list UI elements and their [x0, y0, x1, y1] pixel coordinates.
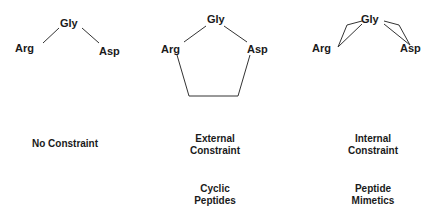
- bond-gly-arg-1: [43, 28, 59, 43]
- subcaption-peptide-mimetics: Peptide Mimetics: [333, 183, 413, 207]
- caption-line: Internal: [333, 133, 413, 145]
- diagram-lines: [0, 0, 430, 210]
- node-asp-3: Asp: [400, 42, 421, 54]
- caption-line: Constraint: [333, 145, 413, 157]
- subcaption-cyclic-peptides: Cyclic Peptides: [175, 183, 255, 207]
- node-asp-1: Asp: [99, 45, 120, 57]
- caption-line: Cyclic: [175, 183, 255, 195]
- node-arg-2: Arg: [161, 43, 180, 55]
- caption-line: No Constraint: [20, 138, 110, 150]
- node-asp-2: Asp: [247, 43, 268, 55]
- bond-gly-arg-3a: [338, 24, 362, 47]
- node-arg-1: Arg: [15, 42, 34, 54]
- caption-external-constraint: External Constraint: [175, 133, 255, 157]
- node-gly-2: Gly: [207, 13, 225, 25]
- caption-line: Peptide: [333, 183, 413, 195]
- bond-gly-asp-2: [224, 26, 247, 42]
- node-gly-3: Gly: [361, 13, 379, 25]
- caption-internal-constraint: Internal Constraint: [333, 133, 413, 157]
- caption-line: External: [175, 133, 255, 145]
- bond-gly-asp-1: [82, 28, 99, 43]
- caption-line: Mimetics: [333, 195, 413, 207]
- caption-line: Peptides: [175, 195, 255, 207]
- external-ring: [177, 55, 250, 96]
- caption-line: Constraint: [175, 145, 255, 157]
- node-gly-1: Gly: [60, 17, 78, 29]
- caption-no-constraint: No Constraint: [20, 138, 110, 150]
- bond-gly-arg-2: [184, 26, 206, 42]
- node-arg-3: Arg: [312, 42, 331, 54]
